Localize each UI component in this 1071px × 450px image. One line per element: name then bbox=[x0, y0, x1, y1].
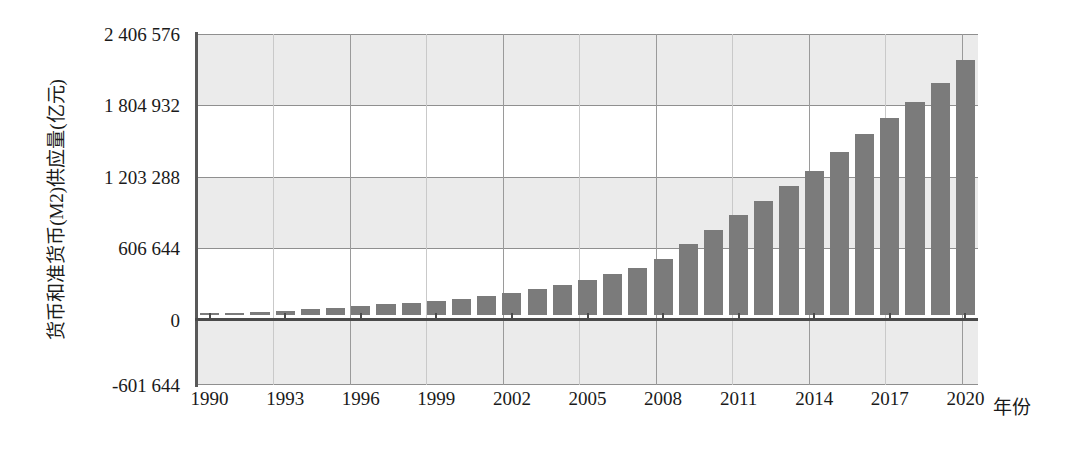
x-tick-mark bbox=[587, 313, 589, 319]
bar bbox=[779, 186, 798, 315]
bar bbox=[502, 293, 521, 315]
bar bbox=[578, 280, 597, 315]
y-tick-label: 2 406 576 bbox=[65, 25, 180, 44]
bar bbox=[805, 171, 824, 314]
y-axis-tick-labels: 2 406 576 1 804 932 1 203 288 606 644 0 … bbox=[63, 0, 180, 450]
bar bbox=[754, 201, 773, 315]
bar bbox=[376, 304, 395, 315]
bar bbox=[603, 274, 622, 314]
x-tick-mark bbox=[209, 313, 211, 319]
y-tick-label: 606 644 bbox=[65, 239, 180, 258]
x-tick-label: 2020 bbox=[946, 389, 984, 408]
x-tick-label: 1990 bbox=[191, 389, 229, 408]
y-tick-label: 1 203 288 bbox=[65, 168, 180, 187]
x-tick-label: 1996 bbox=[342, 389, 380, 408]
x-axis-title: 年份 bbox=[993, 392, 1031, 419]
x-tick-label: 1999 bbox=[417, 389, 455, 408]
x-tick-label: 2008 bbox=[644, 389, 682, 408]
bar bbox=[326, 308, 345, 315]
bar bbox=[477, 296, 496, 314]
x-tick-mark bbox=[889, 313, 891, 319]
bar bbox=[905, 102, 924, 315]
x-tick-label: 2017 bbox=[871, 389, 909, 408]
bar bbox=[956, 60, 975, 315]
bar bbox=[250, 312, 269, 315]
bar bbox=[931, 83, 950, 315]
bar bbox=[225, 313, 244, 315]
bar bbox=[830, 152, 849, 314]
bar bbox=[628, 268, 647, 315]
x-tick-label: 1993 bbox=[266, 389, 304, 408]
bar bbox=[704, 230, 723, 315]
plot-area bbox=[197, 34, 978, 385]
x-tick-mark bbox=[662, 313, 664, 319]
bar bbox=[654, 259, 673, 314]
x-tick-mark bbox=[813, 313, 815, 319]
x-tick-label: 2014 bbox=[795, 389, 833, 408]
bar bbox=[452, 299, 471, 315]
bar bbox=[729, 215, 748, 314]
x-tick-mark bbox=[360, 313, 362, 319]
x-tick-label: 2011 bbox=[720, 389, 757, 408]
x-tick-mark bbox=[738, 313, 740, 319]
bar bbox=[402, 303, 421, 315]
y-axis-line bbox=[195, 32, 198, 387]
bar bbox=[553, 285, 572, 315]
x-tick-label: 2002 bbox=[493, 389, 531, 408]
x-tick-mark bbox=[284, 313, 286, 319]
x-tick-mark bbox=[435, 313, 437, 319]
x-axis-tick-labels: 1990199319961999200220052008201120142017… bbox=[0, 389, 1071, 423]
bar-series bbox=[197, 34, 978, 385]
y-tick-label: 1 804 932 bbox=[65, 96, 180, 115]
x-tick-mark bbox=[511, 313, 513, 319]
y-tick-label: 0 bbox=[65, 311, 180, 330]
bar bbox=[528, 289, 547, 315]
bar bbox=[679, 244, 698, 315]
x-tick-mark bbox=[964, 313, 966, 319]
bar bbox=[301, 309, 320, 314]
x-tick-label: 2005 bbox=[569, 389, 607, 408]
bar bbox=[855, 134, 874, 315]
bar bbox=[880, 118, 899, 315]
m2-supply-bar-chart: 货币和准货币(M2)供应量(亿元) 2 406 576 1 804 932 1 … bbox=[0, 0, 1071, 450]
